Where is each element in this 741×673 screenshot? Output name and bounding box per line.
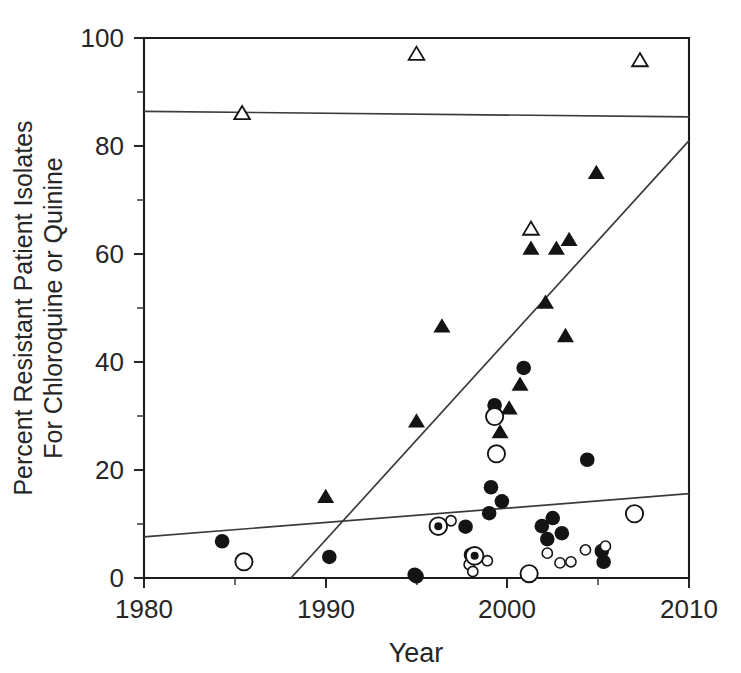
fit-lines [144, 111, 689, 578]
y-tick-label-100: 100 [81, 23, 124, 53]
fit-line-upper-flat [144, 111, 689, 116]
data-point-1-3 [492, 424, 509, 438]
data-point-0-1 [409, 47, 425, 60]
data-point-2-6 [482, 506, 497, 521]
x-axis-title: Year [389, 638, 444, 668]
x-tick-label-1980: 1980 [115, 594, 173, 624]
y-tick-label-20: 20 [95, 455, 124, 485]
data-point-1-7 [537, 294, 554, 308]
data-point-2-0 [215, 534, 230, 549]
x-tick-label-2000: 2000 [478, 594, 536, 624]
data-point-1-10 [561, 232, 578, 246]
y-tick-label-0: 0 [110, 563, 124, 593]
series-3 [235, 408, 643, 582]
data-point-2-17 [596, 555, 611, 570]
data-point-3-1 [486, 408, 503, 425]
data-point-5-1-inner [471, 552, 479, 560]
data-point-2-1 [322, 550, 337, 565]
y-axis-ticks [134, 38, 144, 578]
data-point-1-5 [512, 376, 529, 390]
series-1 [317, 165, 605, 503]
data-point-4-8 [600, 541, 610, 551]
fit-line-shallow-rising [144, 494, 689, 537]
plot-frame [144, 38, 689, 578]
data-point-2-14 [555, 526, 570, 541]
data-point-2-4 [458, 519, 473, 534]
x-tick-label-2010: 2010 [660, 594, 718, 624]
y-tick-label-60: 60 [95, 239, 124, 269]
y-axis-title-line-2: For Chloroquine or Quinine [39, 157, 67, 459]
data-point-5-0-inner [434, 522, 442, 530]
data-point-4-7 [580, 545, 590, 555]
data-point-0-2 [523, 222, 539, 235]
data-point-1-2 [433, 318, 450, 332]
y-tick-label-80: 80 [95, 131, 124, 161]
data-point-4-5 [555, 558, 565, 568]
data-point-1-8 [548, 240, 565, 254]
x-tick-label-1990: 1990 [297, 594, 355, 624]
data-point-3-4 [626, 505, 643, 522]
data-point-4-6 [566, 557, 576, 567]
data-point-4-2 [468, 566, 478, 576]
data-point-3-3 [521, 565, 538, 582]
data-point-0-3 [632, 53, 648, 66]
scatter-plot-canvas: 0 20 40 60 80 100 1980 1990 2000 2010 Ye… [0, 0, 741, 673]
data-point-2-13 [545, 511, 560, 526]
data-point-2-9 [495, 494, 510, 509]
data-point-2-15 [580, 452, 595, 467]
series-0 [234, 47, 648, 235]
data-point-1-11 [588, 165, 605, 179]
y-axis-title-line-1: Percent Resistant Patient Isolates [9, 120, 37, 495]
data-point-3-2 [488, 445, 505, 462]
data-point-2-3 [409, 569, 424, 584]
y-axis-title: Percent Resistant Patient Isolates For C… [9, 120, 67, 495]
data-point-4-4 [542, 548, 552, 558]
y-tick-label-40: 40 [95, 347, 124, 377]
data-point-2-10 [516, 361, 531, 376]
x-tick-labels: 1980 1990 2000 2010 [115, 594, 718, 624]
data-point-1-9 [557, 328, 574, 342]
chart-figure: 0 20 40 60 80 100 1980 1990 2000 2010 Ye… [0, 0, 741, 673]
data-point-1-0 [317, 489, 334, 503]
data-markers [215, 47, 648, 584]
y-tick-labels: 0 20 40 60 80 100 [81, 23, 124, 593]
data-point-2-7 [484, 480, 499, 495]
data-point-1-1 [408, 413, 425, 427]
series-5 [430, 517, 484, 564]
data-point-1-6 [522, 240, 539, 254]
data-point-2-12 [540, 532, 555, 547]
data-point-3-0 [235, 553, 252, 570]
